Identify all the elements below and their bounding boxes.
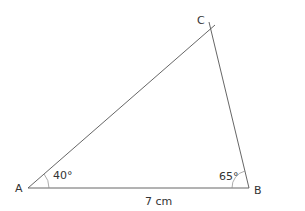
angle-label-b: 65°: [219, 170, 239, 183]
side-bc: [209, 22, 249, 188]
angle-label-a: 40°: [53, 169, 73, 182]
side-label-ab: 7 cm: [145, 195, 172, 208]
side-ac: [28, 25, 215, 188]
angle-arc-a: [44, 174, 49, 188]
vertex-label-b: B: [254, 184, 262, 197]
vertex-label-a: A: [15, 182, 23, 195]
vertex-label-c: C: [197, 14, 205, 27]
triangle-diagram: A B C 40° 65° 7 cm: [0, 0, 305, 211]
